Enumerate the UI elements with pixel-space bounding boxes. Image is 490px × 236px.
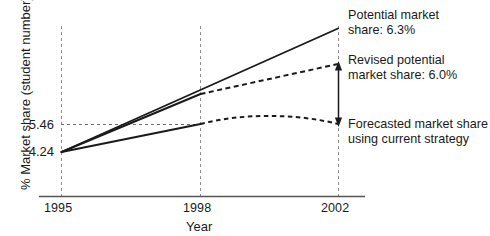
annotation-revised-line1: Revised potential xyxy=(348,53,457,68)
x-tick-label-2002: 2002 xyxy=(321,201,349,216)
series-revised-dashed xyxy=(201,64,339,94)
market-share-chart: % Market share (student number) 5.46 4.2… xyxy=(0,0,490,236)
x-tick-label-1995: 1995 xyxy=(44,201,72,216)
y-axis-title: % Market share (student number) xyxy=(18,0,34,190)
y-value-label-lower: 4.24 xyxy=(6,144,54,160)
series-forecasted-dashed xyxy=(201,116,339,124)
annotation-forecasted-market-share: Forecasted market share using current st… xyxy=(348,117,488,148)
series-potential-market-share xyxy=(62,29,339,153)
annotation-potential-line2: share: 6.3% xyxy=(348,23,439,38)
annotation-forecasted-line1: Forecasted market share xyxy=(348,117,488,132)
gap-arrow xyxy=(335,61,342,127)
y-value-label-upper: 5.46 xyxy=(6,117,54,133)
series-forecasted-solid xyxy=(62,124,201,152)
annotation-revised-line2: market share: 6.0% xyxy=(348,68,457,83)
annotation-revised-potential-market-share: Revised potential market share: 6.0% xyxy=(348,53,457,84)
x-axis-title: Year xyxy=(186,219,212,235)
annotation-potential-line1: Potential market xyxy=(348,8,439,23)
x-tick-label-1998: 1998 xyxy=(183,201,211,216)
annotation-forecasted-line2: using current strategy xyxy=(348,132,488,147)
series-revised-solid xyxy=(62,94,201,152)
annotation-potential-market-share: Potential market share: 6.3% xyxy=(348,8,439,39)
